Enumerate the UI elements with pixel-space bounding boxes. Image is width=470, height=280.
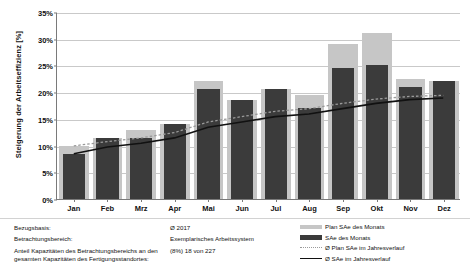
x-axis-tick-mark xyxy=(343,199,344,202)
swatch-plan-icon xyxy=(300,223,322,230)
y-axis-tick-label: 5% xyxy=(42,169,53,178)
legend-item-label: Plan SAe des Monats xyxy=(325,223,385,230)
swatch-ist xyxy=(300,235,322,240)
legend-item-label: Ø SAe im Jahresverlauf xyxy=(325,255,390,262)
swatch-ist-icon xyxy=(300,234,322,241)
trend-line-actual-average xyxy=(74,98,443,154)
y-axis-tick-label: 35% xyxy=(38,9,53,18)
legend-item: Plan SAe des Monats xyxy=(300,223,466,230)
chart-legend: Plan SAe des MonatsSAe des MonatsØ Plan … xyxy=(300,223,466,266)
info-value: (8%) 18 von 227 xyxy=(170,247,276,264)
y-axis-tick-label: 15% xyxy=(38,115,53,124)
x-axis-tick-mark xyxy=(309,199,310,202)
y-axis-title: Steigerung der Arbeitseffizienz [%] xyxy=(14,15,23,175)
info-table: Bezugsbasis:Ø 2017Betrachtungsbereich:Ex… xyxy=(14,224,276,266)
info-row: Anteil Kapazitäten des Betrachtungsberei… xyxy=(14,247,276,264)
y-axis-tick-label: 20% xyxy=(38,89,53,98)
x-axis-tick-mark xyxy=(377,199,378,202)
info-row: Betrachtungsbereich:Exemplarisches Arbei… xyxy=(14,235,276,243)
legend-item: SAe des Monats xyxy=(300,234,466,241)
chart-container: Steigerung der Arbeitseffizienz [%] 0%5%… xyxy=(0,0,470,218)
info-label: Anteil Kapazitäten des Betrachtungsberei… xyxy=(14,247,170,264)
swatch-plan xyxy=(300,225,322,229)
trend-lines xyxy=(57,13,460,199)
x-axis-tick-mark xyxy=(242,199,243,202)
y-axis-tick-label: 30% xyxy=(38,35,53,44)
info-value: Exemplarisches Arbeitssystem xyxy=(170,235,276,243)
info-row: Bezugsbasis:Ø 2017 xyxy=(14,224,276,232)
x-axis-tick-mark xyxy=(208,199,209,202)
swatch-line-solid xyxy=(300,258,322,259)
x-axis-tick-mark xyxy=(276,199,277,202)
y-axis-tick-label: 25% xyxy=(38,62,53,71)
y-axis-tick-label: 10% xyxy=(38,142,53,151)
x-axis-tick-mark xyxy=(444,199,445,202)
trend-line-plan-average xyxy=(74,95,443,145)
legend-item-label: SAe des Monats xyxy=(325,234,370,241)
info-label: Betrachtungsbereich: xyxy=(14,235,170,243)
y-axis-tick-label: 0% xyxy=(42,196,53,205)
x-axis-tick-mark xyxy=(107,199,108,202)
x-axis-tick-mark xyxy=(410,199,411,202)
legend-item-label: Ø Plan SAe im Jahresverlauf xyxy=(325,244,404,251)
plot-area: 0%5%10%15%20%25%30%35% JanFebMrzAprMaiJu… xyxy=(56,13,460,200)
info-footer: Bezugsbasis:Ø 2017Betrachtungsbereich:Ex… xyxy=(0,218,470,280)
swatch-line-dotted xyxy=(300,247,322,248)
info-label: Bezugsbasis: xyxy=(14,224,170,232)
swatch-line-solid-icon xyxy=(300,255,322,262)
info-value: Ø 2017 xyxy=(170,224,276,232)
x-axis-tick-mark xyxy=(74,199,75,202)
swatch-line-dotted-icon xyxy=(300,244,322,251)
legend-item: Ø SAe im Jahresverlauf xyxy=(300,255,466,262)
chart-screenshot: Steigerung der Arbeitseffizienz [%] 0%5%… xyxy=(0,0,470,280)
x-axis-tick-mark xyxy=(141,199,142,202)
x-axis-tick-mark xyxy=(175,199,176,202)
legend-item: Ø Plan SAe im Jahresverlauf xyxy=(300,244,466,251)
